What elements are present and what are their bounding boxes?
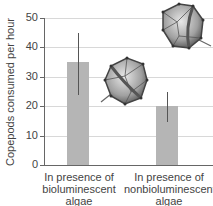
y-axis-line <box>44 18 45 166</box>
x-label-nonbioluminescent: In presence of nonbioluminescent algae <box>124 171 213 206</box>
x-label-line: bioluminescent <box>42 183 116 195</box>
ytick-label-50: 50 <box>18 11 38 23</box>
x-label-line: algae <box>124 195 213 206</box>
x-label-line: algae <box>42 195 116 206</box>
y-axis-label: Copepods consumed per hour <box>0 0 20 206</box>
algae-cell-illustration-1 <box>97 52 153 108</box>
x-label-bioluminescent: In presence of bioluminescent algae <box>42 171 116 206</box>
ytick-label-0: 0 <box>18 158 38 170</box>
x-label-line: nonbioluminescent <box>124 183 213 195</box>
x-axis-line <box>40 165 213 166</box>
error-bar-bioluminescent <box>78 33 79 95</box>
ytick-label-20: 20 <box>18 99 38 111</box>
x-label-line: In presence of <box>42 171 116 183</box>
algae-cell-illustration-2 <box>155 0 213 54</box>
y-axis-title: Copepods consumed per hour <box>4 18 16 166</box>
x-label-line: In presence of <box>124 171 213 183</box>
error-bar-nonbioluminescent <box>167 92 168 122</box>
ytick-label-10: 10 <box>18 129 38 141</box>
ytick-label-30: 30 <box>18 70 38 82</box>
ytick-label-40: 40 <box>18 40 38 52</box>
